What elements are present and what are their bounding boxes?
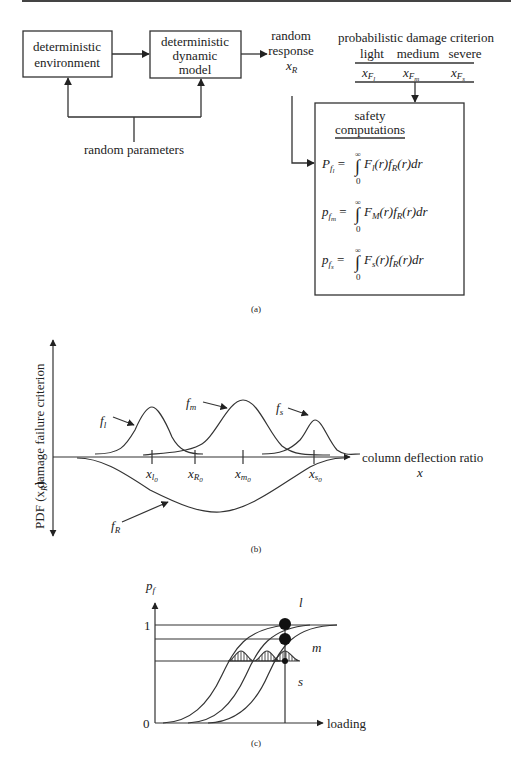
arrow-f-s	[288, 408, 308, 415]
criterion-title: probabilistic damage criterion	[338, 30, 494, 45]
tick-label-x-r0: xR0	[187, 466, 203, 484]
criterion-medium: medium	[397, 46, 440, 61]
equation-severe: pfs = ∫ ∞ 0 Fs(r)fR(r)dr	[321, 246, 425, 282]
label-f-l: fl	[100, 413, 107, 430]
tick-label-x-m0: xm0	[234, 466, 251, 484]
svg-text:∫: ∫	[354, 204, 361, 225]
svg-text:0: 0	[356, 224, 361, 234]
y-label-damage: damage failure criterion	[32, 363, 47, 488]
criterion-severe: severe	[448, 46, 481, 61]
svg-text:pfs =: pfs =	[321, 252, 344, 271]
point-l-marker	[279, 618, 291, 630]
response-symbol: xR	[285, 58, 298, 75]
random-response-line1: random	[271, 28, 311, 43]
model-box-line3: model	[179, 62, 212, 77]
svg-text:∫: ∫	[354, 156, 361, 177]
curve-f-s	[262, 420, 360, 454]
model-box-line1: deterministic	[161, 34, 229, 49]
safety-equations: Pfl = ∫ ∞ 0 Fl(r)fR(r)dr pfm = ∫ ∞ 0 FM(…	[321, 150, 429, 282]
panel-c	[155, 603, 337, 723]
criterion-symbol-light: xFl	[361, 65, 375, 83]
svg-text:pfm =: pfm =	[321, 204, 347, 223]
curve-label-s: s	[298, 674, 303, 689]
pf-label: pf	[145, 578, 157, 595]
deterministic-environment-box	[23, 31, 112, 77]
criterion-light: light	[360, 46, 384, 61]
loading-label: loading	[327, 716, 366, 731]
caption-a: (a)	[251, 304, 261, 314]
arrow-f-l	[113, 417, 134, 425]
svg-text:∫: ∫	[354, 252, 361, 273]
tick-label-x-l0: xl0	[145, 466, 158, 484]
response-to-safety-arrow	[292, 96, 314, 163]
figure-canvas: deterministic environment deterministic …	[0, 0, 511, 762]
caption-c: (c)	[251, 738, 261, 748]
curve-f-m	[143, 400, 330, 455]
label-f-m: fm	[186, 395, 197, 412]
label-f-s: fs	[276, 400, 284, 417]
model-box-line2: dynamic	[173, 48, 218, 63]
svg-text:∞: ∞	[355, 198, 361, 207]
curve-f-r	[77, 458, 345, 512]
svg-text:0: 0	[356, 272, 361, 282]
random-response-line2: response	[268, 43, 314, 58]
arrow-f-m	[203, 402, 227, 408]
tick-label-x-s0: xs0	[308, 466, 322, 484]
curve-f-l	[95, 407, 203, 454]
env-box-line2: environment	[34, 55, 100, 70]
x-symbol: x	[416, 465, 423, 480]
label-f-r: fR	[111, 518, 121, 535]
pf-tick-one: 1	[144, 618, 151, 633]
caption-b: (b)	[251, 544, 262, 554]
criterion-symbol-severe: xFs	[450, 65, 465, 83]
point-s-marker	[282, 658, 288, 664]
svg-text:Pfl =: Pfl =	[321, 156, 345, 175]
svg-text:∞: ∞	[355, 150, 361, 159]
equation-light: Pfl = ∫ ∞ 0 Fl(r)fR(r)dr	[321, 150, 424, 186]
svg-text:Fl(r)fR(r)dr: Fl(r)fR(r)dr	[363, 156, 424, 173]
env-box-line1: deterministic	[33, 39, 101, 54]
safety-title-line1: safety	[354, 108, 386, 123]
svg-text:0: 0	[356, 176, 361, 186]
equation-medium: pfm = ∫ ∞ 0 FM(r)fR(r)dr	[321, 198, 429, 234]
svg-text:FM(r)fR(r)dr: FM(r)fR(r)dr	[363, 204, 429, 221]
curve-label-m: m	[312, 640, 321, 655]
panel-b	[53, 340, 360, 536]
pf-tick-zero: 0	[143, 716, 150, 731]
x-label-deflection: column deflection ratio	[362, 450, 483, 465]
svg-text:∞: ∞	[355, 246, 361, 255]
random-parameters-label: random parameters	[84, 142, 184, 157]
curve-label-l: l	[299, 595, 303, 610]
arrow-f-r	[122, 502, 168, 522]
criterion-symbol-medium: xFm	[402, 65, 419, 83]
svg-text:Fs(r)fR(r)dr: Fs(r)fR(r)dr	[363, 252, 425, 269]
point-m-marker	[279, 633, 291, 645]
safety-title-line2: computations	[335, 122, 405, 137]
